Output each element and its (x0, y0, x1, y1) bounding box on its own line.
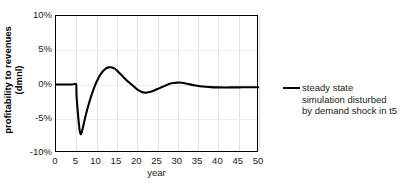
legend-label-line: simulation disturbed (302, 94, 397, 106)
y-axis-tick-labels: 10%5%0%-5%-10% (18, 0, 52, 193)
y-tick-label: -5% (20, 113, 52, 123)
series-line-steady-state (56, 16, 259, 153)
legend-line-swatch (283, 87, 300, 89)
x-axis-title: year (55, 167, 258, 178)
legend-label-line: by demand shock in t5 (302, 105, 397, 117)
x-tick-label: 40 (212, 155, 223, 166)
legend-label: steady statesimulation disturbedby deman… (302, 82, 397, 117)
x-tick-label: 20 (131, 155, 142, 166)
series-path (56, 67, 259, 134)
x-tick-label: 0 (52, 155, 57, 166)
y-tick-label: -10% (20, 147, 52, 157)
legend: steady statesimulation disturbedby deman… (283, 82, 409, 117)
plot-area (55, 15, 258, 152)
x-tick-label: 45 (232, 155, 243, 166)
x-tick-label: 15 (111, 155, 122, 166)
y-tick-label: 0% (20, 79, 52, 89)
x-tick-label: 30 (172, 155, 183, 166)
x-tick-label: 10 (90, 155, 101, 166)
x-tick-label: 5 (73, 155, 78, 166)
vertical-gridline (259, 16, 260, 151)
x-tick-label: 25 (151, 155, 162, 166)
y-tick-label: 10% (20, 10, 52, 20)
y-tick-label: 5% (20, 44, 52, 54)
legend-label-line: steady state (302, 82, 397, 94)
x-tick-label: 50 (253, 155, 264, 166)
chart-figure: profitability to revenues (dmnl) 10%5%0%… (0, 0, 411, 193)
y-axis-title-line1: profitability to revenues (2, 26, 13, 134)
x-tick-label: 35 (192, 155, 203, 166)
